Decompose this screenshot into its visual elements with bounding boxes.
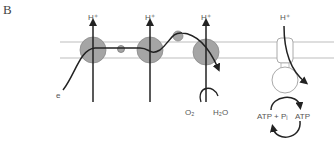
proton-label-1: H⁺: [88, 13, 98, 22]
atp-label: ATP: [295, 112, 310, 121]
atp-synthesis-arrow: [271, 97, 300, 110]
adp-phosphate-label: ATP + Pᵢ: [257, 112, 288, 121]
panel-label: B: [3, 2, 12, 17]
electron-transport-chain-diagram: B H⁺ H⁺ H⁺ H⁺ e O₂ H₂O ATP + Pᵢ: [0, 0, 334, 146]
water-label: H₂O: [213, 108, 228, 117]
ubiquinone: [118, 46, 125, 53]
oxygen-reduction-arrow: [200, 88, 218, 102]
atp-hydrolysis-arrow: [273, 121, 300, 137]
oxygen-label: O₂: [185, 108, 194, 117]
proton-label-2: H⁺: [145, 13, 155, 22]
proton-label-4: H⁺: [280, 13, 290, 22]
proton-label-3: H⁺: [201, 13, 211, 22]
electron-label: e: [56, 91, 61, 100]
